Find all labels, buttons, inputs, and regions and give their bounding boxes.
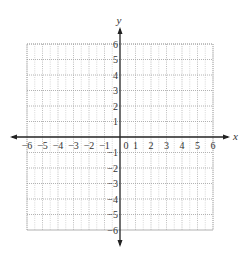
arrow-right-icon	[223, 135, 230, 140]
x-tick-label: −6	[22, 140, 33, 151]
y-tick-label: 5	[113, 54, 118, 65]
y-tick-label: −6	[107, 225, 118, 236]
axes	[10, 27, 230, 247]
arrow-left-icon	[10, 135, 17, 140]
x-tick-label: 6	[211, 140, 216, 151]
x-axis-label: x	[232, 130, 238, 142]
x-tick-label: −3	[68, 140, 79, 151]
arrow-up-icon	[118, 27, 123, 34]
y-tick-label: −3	[107, 178, 118, 189]
x-tick-label: 3	[164, 140, 169, 151]
y-tick-label: −5	[107, 209, 118, 220]
y-tick-label: 1	[113, 116, 118, 127]
x-tick-label: −2	[84, 140, 95, 151]
y-tick-label: 4	[113, 70, 118, 81]
x-tick-label: −5	[37, 140, 48, 151]
x-tick-labels: −6−5−4−3−2−10123456	[22, 140, 216, 151]
x-tick-label: 1	[133, 140, 138, 151]
x-tick-label: 4	[180, 140, 185, 151]
x-tick-label: 0	[124, 140, 129, 151]
x-tick-label: 2	[149, 140, 154, 151]
x-tick-label: 5	[195, 140, 200, 151]
y-tick-label: −1	[107, 147, 118, 158]
y-tick-label: 3	[113, 85, 118, 96]
coordinate-plane: −6−5−4−3−2−10123456 654321−1−2−3−4−5−6 x…	[0, 0, 245, 255]
y-tick-label: −2	[107, 163, 118, 174]
y-tick-label: 6	[113, 39, 118, 50]
x-tick-label: −4	[53, 140, 64, 151]
y-tick-label: −4	[107, 194, 118, 205]
y-axis-label: y	[116, 14, 122, 26]
y-tick-label: 2	[113, 101, 118, 112]
arrow-down-icon	[118, 240, 123, 247]
